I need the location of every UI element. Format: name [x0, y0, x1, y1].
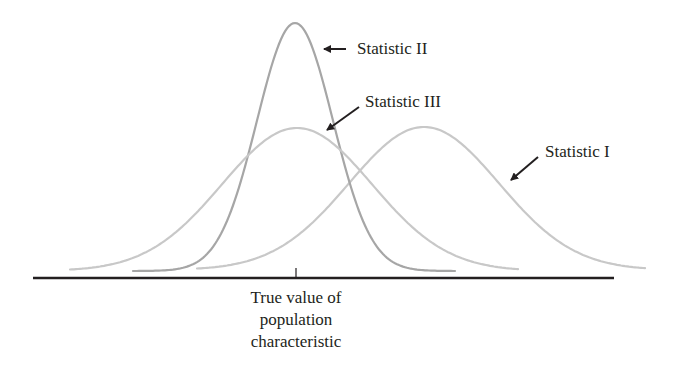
curve-statistic-ii [133, 23, 455, 271]
true-value-caption: True value of population characteristic [196, 287, 396, 353]
statistic-2-label: Statistic II [357, 40, 427, 57]
statistic-3-label: Statistic III [365, 93, 441, 110]
caption-line-1: True value of [196, 287, 396, 309]
caption-line-2: population [196, 309, 396, 331]
caption-line-3: characteristic [196, 331, 396, 353]
statistic-1-arrow [511, 157, 538, 180]
curve-statistic-iii [70, 128, 518, 270]
statistic-1-label: Statistic I [545, 143, 610, 160]
